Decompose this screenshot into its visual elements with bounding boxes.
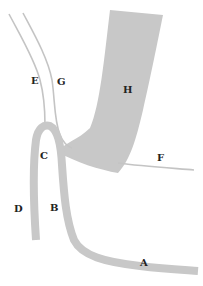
line-f	[118, 163, 194, 170]
label-d: D	[14, 204, 23, 214]
line-e	[9, 14, 45, 125]
label-f: F	[157, 153, 164, 163]
label-h: H	[123, 85, 132, 95]
label-g: G	[57, 77, 66, 87]
band-h	[58, 10, 163, 173]
label-b: B	[50, 203, 58, 213]
diagram-canvas: A B C D E F G H	[0, 0, 203, 286]
diagram-graphics	[0, 0, 203, 286]
label-a: A	[140, 258, 148, 268]
label-c: C	[40, 151, 48, 161]
label-e: E	[31, 76, 39, 86]
